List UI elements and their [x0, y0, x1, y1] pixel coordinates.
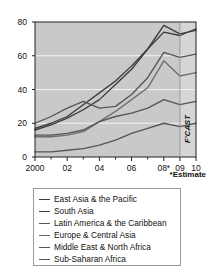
legend-label: South Asia	[54, 205, 94, 217]
legend-line-swatch-icon	[39, 223, 50, 224]
x-tick-label: 2000	[18, 164, 52, 173]
y-tick-label: 80	[5, 18, 27, 27]
legend-line-swatch-icon	[39, 211, 50, 212]
legend-line-swatch-icon	[39, 199, 50, 200]
chart-legend: East Asia & the PacificSouth AsiaLatin A…	[33, 188, 181, 266]
y-tick-label: 40	[5, 86, 27, 95]
legend-item[interactable]: Middle East & North Africa	[39, 241, 175, 253]
x-tick-label: 02	[50, 164, 84, 173]
legend-label: Europe & Central Asia	[54, 229, 136, 241]
legend-line-swatch-icon	[39, 235, 50, 236]
legend-item[interactable]: Sub-Saharan Africa	[39, 253, 175, 265]
legend-line-swatch-icon	[39, 259, 50, 260]
legend-item[interactable]: East Asia & the Pacific	[39, 193, 175, 205]
legend-label: Middle East & North Africa	[54, 241, 151, 253]
legend-line-swatch-icon	[39, 247, 50, 248]
forecast-band-label: F'CAST	[183, 115, 192, 143]
legend-item[interactable]: Latin America & the Caribbean	[39, 217, 175, 229]
plot-area: 020406080 200002040608*0910 F'CAST	[0, 0, 214, 180]
y-tick-label: 60	[5, 52, 27, 61]
line-chart-svg	[0, 0, 214, 180]
x-tick-label: 06	[115, 164, 149, 173]
legend-item[interactable]: South Asia	[39, 205, 175, 217]
estimate-footnote: *Estimate	[170, 170, 206, 179]
x-tick-label: 04	[82, 164, 116, 173]
chart-container: 020406080 200002040608*0910 F'CAST *Esti…	[0, 0, 214, 273]
legend-item[interactable]: Europe & Central Asia	[39, 229, 175, 241]
legend-label: Sub-Saharan Africa	[54, 253, 126, 265]
legend-label: Latin America & the Caribbean	[54, 217, 167, 229]
y-tick-label: 20	[5, 119, 27, 128]
y-tick-label: 0	[5, 153, 27, 162]
legend-label: East Asia & the Pacific	[54, 193, 137, 205]
